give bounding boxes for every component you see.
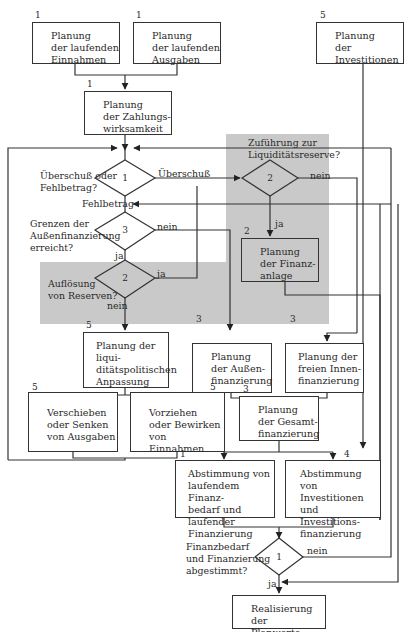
step-number: 3: [290, 314, 296, 324]
box-verschieben-ausgaben: Verschieben oder Senken von Ausgaben: [28, 392, 118, 452]
edge-label: nein: [310, 170, 331, 182]
step-number: 1: [180, 449, 186, 459]
box-realisierung-planwerte: Realisierung der Planwerte: [232, 595, 326, 629]
step-number: 2: [244, 226, 250, 236]
step-number: 1: [35, 10, 41, 20]
box-planung-innenfinanzierung: Planung der freien Innen- finanzierung: [285, 343, 364, 393]
decision-question: Auflösung von Reserven?: [48, 278, 117, 302]
box-planung-einnahmen: Planung der laufenden Einnahmen: [32, 22, 120, 64]
edge-label: nein: [107, 300, 128, 312]
box-abstimmung-laufend: Abstimmung von laufendem Finanz- bedarf …: [175, 460, 275, 518]
box-planung-ausgaben: Planung der laufenden Ausgaben: [133, 22, 221, 64]
step-number: 1: [87, 79, 93, 89]
box-vorziehen-einnahmen: Vorziehen oder Bewirken von Einnahmen: [130, 392, 225, 452]
edge-label: ja: [157, 268, 166, 280]
decision-question: Überschuß oder Fehlbetrag?: [40, 170, 117, 194]
decision-question: Grenzen der Außenfinanzierung erreicht?: [30, 218, 121, 254]
decision-number: 1: [115, 173, 135, 183]
box-planung-aussenfinanzierung: Planung der Außen- finanzierung: [192, 343, 272, 393]
decision-question: Finanzbedarf und Finanzierung abgestimmt…: [186, 541, 270, 577]
step-number: 5: [320, 10, 326, 20]
edge-label: nein: [307, 545, 328, 557]
step-number: 5: [32, 382, 38, 392]
step-number: 5: [210, 382, 216, 392]
edge-label: ja: [268, 578, 277, 590]
step-number: 3: [196, 314, 202, 324]
box-planung-zahlungswirksamkeit: Planung der Zahlungs- wirksamkeit: [84, 91, 172, 135]
box-planung-gesamtfinanzierung: Planung der Gesamt- finanzierung: [239, 396, 319, 441]
step-number: 1: [136, 10, 142, 20]
edge-label: ja: [115, 250, 124, 262]
decision-number: 1: [269, 552, 289, 562]
edge-label: Überschuß: [158, 168, 210, 180]
edge-label: ja: [275, 218, 284, 230]
edge-label: Fehlbetrag: [82, 198, 134, 210]
step-number: 5: [86, 320, 92, 330]
step-number: 4: [344, 449, 350, 459]
box-abstimmung-investitionen: Abstimmung von Investitionen und Investi…: [285, 460, 381, 518]
decision-number: 2: [260, 173, 280, 183]
step-number: 3: [243, 384, 249, 394]
box-planung-finanzanlage: Planung der Finanz- anlage: [241, 238, 319, 282]
box-liquiditaetspolitische-anpassung: Planung der liqui- ditätspolitischen Anp…: [83, 332, 169, 388]
decision-number: 2: [115, 273, 135, 283]
edge-label: nein: [157, 221, 178, 233]
box-planung-investitionen: Planung der Investitionen: [316, 22, 404, 64]
decision-question: Zuführung zur Liquiditätsreserve?: [248, 137, 340, 161]
